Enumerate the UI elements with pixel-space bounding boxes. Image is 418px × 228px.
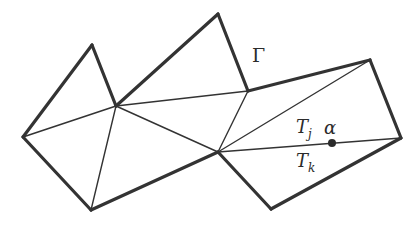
boundary-edge-IJ	[91, 152, 218, 210]
boundary-edge-BC	[92, 45, 116, 106]
boundary-edge-EF	[248, 60, 370, 91]
interior-edge-CE	[116, 91, 248, 106]
triangulation-diagram: Γ Tj α Tk	[0, 0, 418, 228]
boundary-edge-JA	[23, 137, 91, 210]
boundary-edge-AB	[23, 45, 92, 137]
boundary-gamma	[23, 14, 401, 210]
label-triangle-j: Tj	[296, 116, 312, 141]
boundary-edge-GH	[271, 138, 401, 209]
interior-edge-AC	[23, 106, 116, 137]
boundary-edge-CD	[116, 14, 218, 106]
label-gamma: Γ	[252, 44, 265, 66]
interior-edge-CJ	[91, 106, 116, 210]
boundary-edge-DE	[218, 14, 248, 91]
boundary-edge-HI	[218, 152, 271, 209]
interior-edges	[23, 60, 401, 210]
interior-edge-CI	[116, 106, 218, 152]
point-alpha-marker	[328, 139, 336, 147]
boundary-edge-FG	[370, 60, 401, 138]
label-triangle-k: Tk	[296, 150, 315, 175]
label-alpha: α	[324, 117, 336, 138]
